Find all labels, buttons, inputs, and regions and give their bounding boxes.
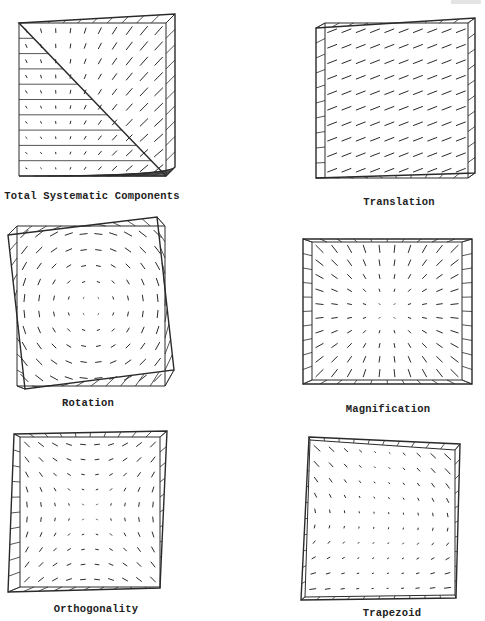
- displacement-vector: [433, 513, 434, 516]
- displacement-vector: [388, 558, 389, 559]
- displacement-vector: [403, 483, 404, 485]
- displacement-vector: [444, 587, 450, 588]
- displacement-vector: [403, 468, 405, 470]
- displacement-vector: [315, 493, 317, 497]
- displacement-vector: [445, 573, 450, 574]
- displacement-vector: [432, 498, 434, 501]
- displacement-vector: [445, 454, 451, 460]
- displacement-vector: [344, 464, 347, 467]
- displacement-vector: [327, 557, 330, 558]
- displacement-vector: [403, 498, 404, 499]
- displacement-vector: [315, 509, 316, 513]
- displacement-vector: [417, 558, 419, 559]
- displacement-vector: [329, 526, 330, 528]
- displacement-vector: [418, 483, 420, 486]
- displacement-vector: [447, 528, 448, 531]
- displacement-vector: [360, 450, 362, 452]
- caption-trapezoid: Trapezoid: [363, 607, 422, 619]
- displacement-vector: [344, 495, 345, 497]
- displacement-vector: [431, 558, 434, 559]
- displacement-vector: [312, 557, 315, 559]
- displacement-vector: [431, 573, 435, 574]
- displacement-vector: [447, 543, 449, 545]
- displacement-vector: [314, 477, 317, 482]
- displacement-vector: [433, 528, 434, 530]
- displacement-vector: [403, 543, 404, 544]
- displacement-vector: [389, 453, 390, 454]
- displacement-vector: [432, 543, 434, 545]
- displacement-vector: [446, 558, 449, 560]
- vector-field-trapezoid: [0, 0, 485, 621]
- displacement-vector: [328, 541, 330, 543]
- displacement-vector: [416, 573, 419, 574]
- displacement-vector: [329, 479, 332, 483]
- displacement-vector: [374, 482, 375, 483]
- displacement-vector: [344, 480, 346, 483]
- displacement-vector: [375, 452, 376, 453]
- displacement-vector: [342, 573, 345, 574]
- displacement-vector: [314, 525, 315, 528]
- displacement-vector: [358, 558, 359, 559]
- displacement-vector: [403, 453, 405, 455]
- displacement-vector: [314, 461, 319, 466]
- displacement-vector: [446, 484, 449, 489]
- displacement-vector: [430, 588, 435, 589]
- displacement-vector: [359, 481, 360, 483]
- displacement-vector: [329, 463, 333, 467]
- displacement-vector: [325, 589, 330, 590]
- displacement-vector: [447, 513, 448, 517]
- displacement-vector: [389, 468, 390, 469]
- displacement-vector: [329, 494, 331, 497]
- displacement-vector: [343, 557, 345, 558]
- displacement-vector: [311, 573, 316, 574]
- displacement-vector: [417, 468, 420, 471]
- displacement-vector: [389, 483, 390, 484]
- displacement-vector: [330, 510, 331, 513]
- displacement-vector: [389, 498, 390, 499]
- displacement-vector: [313, 541, 315, 543]
- displacement-vector: [326, 573, 330, 574]
- displacement-vector: [432, 483, 435, 487]
- displacement-vector: [431, 454, 436, 458]
- displacement-vector: [344, 449, 347, 452]
- displacement-vector: [373, 543, 374, 544]
- displacement-vector: [359, 466, 361, 468]
- displacement-vector: [417, 543, 418, 544]
- displacement-vector: [359, 496, 360, 497]
- displacement-vector: [445, 469, 450, 474]
- displacement-vector: [329, 447, 334, 451]
- displacement-vector: [373, 558, 374, 559]
- displacement-vector: [388, 543, 389, 544]
- displacement-vector: [310, 589, 316, 590]
- displacement-vector: [374, 497, 375, 498]
- displacement-vector: [431, 469, 435, 473]
- displacement-vector: [417, 453, 420, 456]
- displacement-vector: [314, 445, 320, 451]
- displacement-vector: [374, 467, 375, 468]
- displacement-vector: [343, 542, 344, 543]
- displacement-vector: [358, 542, 359, 543]
- displacement-vector: [447, 498, 449, 502]
- displacement-vector: [402, 558, 403, 559]
- displacement-vector: [418, 498, 419, 500]
